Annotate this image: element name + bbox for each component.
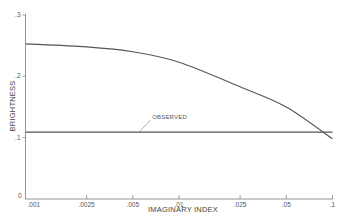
- x-tick-label: .001: [28, 201, 41, 208]
- annotations: OBSERVED: [139, 114, 187, 132]
- x-tick-label: .1: [330, 201, 336, 208]
- x-tick-label: .05: [282, 201, 291, 208]
- y-tick-label: .2: [15, 72, 21, 79]
- brightness-chart: 0.1.2.3 .001.0025.005.01.025.05.1 OBSERV…: [0, 0, 342, 221]
- y-tick-label: .1: [15, 134, 21, 141]
- x-axis-title: IMAGINARY INDEX: [148, 205, 218, 214]
- annotation-label: OBSERVED: [152, 114, 187, 120]
- x-tick-label: .0025: [78, 201, 95, 208]
- y-tick-label: 0: [18, 192, 22, 199]
- y-tick-label: .3: [15, 11, 21, 18]
- series-group: [26, 44, 333, 139]
- y-axis-title: BRIGHTNESS: [8, 81, 17, 132]
- series-line-computed: [26, 44, 333, 139]
- x-tick-label: .005: [126, 201, 139, 208]
- annotation-leader: [139, 120, 150, 132]
- axes: [26, 14, 334, 199]
- x-tick-label: .025: [234, 201, 247, 208]
